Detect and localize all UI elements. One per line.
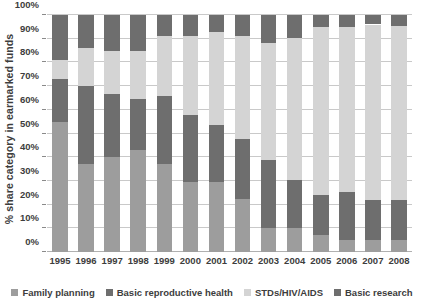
bar-segment (313, 27, 329, 195)
bar-segment (313, 15, 329, 27)
bar-1998 (130, 15, 146, 252)
bar-2006 (339, 15, 355, 252)
legend-swatch-icon (11, 289, 18, 296)
bar-2008 (391, 15, 407, 252)
bar-segment (130, 99, 146, 150)
y-tick-label: 90% (20, 22, 39, 33)
legend-label: Basic reproductive health (117, 287, 233, 298)
y-tick-label: 0% (25, 236, 39, 247)
bar-segment (183, 15, 199, 36)
bar-segment (52, 15, 68, 60)
y-axis-title: % share category in earmarked funds (0, 0, 18, 258)
bar-segment (313, 235, 329, 252)
y-tick-label: 60% (20, 93, 39, 104)
y-tick-mark (42, 227, 46, 228)
bar-segment (104, 15, 120, 51)
bars-layer (47, 15, 412, 252)
legend-swatch-icon (334, 289, 341, 296)
y-tick-label: 40% (20, 141, 39, 152)
stacked-bar-chart: % share category in earmarked funds 0%10… (0, 0, 424, 304)
y-tick-label: 50% (20, 117, 39, 128)
bar-segment (157, 36, 173, 95)
bar-segment (52, 122, 68, 252)
x-tick-label: 2004 (282, 255, 308, 266)
bar-1995 (52, 15, 68, 252)
x-tick-label: 2002 (230, 255, 256, 266)
bar-segment (261, 43, 277, 159)
x-axis-labels: 1995199619971998199920002001200220032004… (47, 255, 412, 269)
y-tick-label: 20% (20, 188, 39, 199)
bar-segment (157, 96, 173, 165)
x-tick-label: 2003 (256, 255, 282, 266)
legend-label: Family planning (22, 287, 94, 298)
bar-segment (157, 15, 173, 36)
y-axis-title-text: % share category in earmarked funds (3, 34, 15, 224)
x-tick-label: 1998 (125, 255, 151, 266)
bar-segment (339, 192, 355, 241)
x-tick-label: 1995 (47, 255, 73, 266)
bar-1997 (104, 15, 120, 252)
bar-segment (391, 26, 407, 200)
bar-segment (52, 60, 68, 79)
y-tick-mark (42, 133, 46, 134)
bar-segment (287, 180, 303, 229)
legend-label: Basic research (345, 287, 413, 298)
legend-item: STDs/HIV/AIDS (244, 287, 323, 298)
x-tick-label: 2006 (334, 255, 360, 266)
bar-segment (130, 15, 146, 51)
y-tick-mark (42, 204, 46, 205)
y-tick-mark (42, 14, 46, 15)
bar-segment (104, 51, 120, 95)
bar-2003 (261, 15, 277, 252)
y-tick-label: 30% (20, 164, 39, 175)
y-tick-mark (42, 109, 46, 110)
bar-1999 (157, 15, 173, 252)
bar-segment (339, 15, 355, 27)
bar-segment (209, 182, 225, 252)
bar-segment (157, 164, 173, 252)
bar-segment (391, 240, 407, 252)
y-tick-label: 70% (20, 70, 39, 81)
legend-swatch-icon (244, 289, 251, 296)
y-tick-label: 100% (15, 0, 39, 10)
bar-segment (130, 150, 146, 252)
bar-segment (78, 15, 94, 48)
bar-segment (78, 164, 94, 252)
bar-segment (261, 15, 277, 43)
legend-swatch-icon (106, 289, 113, 296)
y-tick-mark (42, 61, 46, 62)
bar-segment (183, 182, 199, 252)
bar-segment (365, 240, 381, 252)
y-tick-mark (42, 251, 46, 252)
bar-segment (287, 228, 303, 252)
bar-segment (339, 27, 355, 192)
bar-segment (365, 25, 381, 200)
x-tick-label: 1996 (73, 255, 99, 266)
chart-legend: Family planningBasic reproductive health… (0, 284, 424, 300)
bar-segment (391, 200, 407, 240)
bar-segment (261, 228, 277, 252)
legend-label: STDs/HIV/AIDS (255, 287, 323, 298)
bar-segment (339, 240, 355, 252)
x-tick-label: 1999 (151, 255, 177, 266)
plot-area: 0%10%20%30%40%50%60%70%80%90%100% (47, 15, 412, 252)
bar-segment (235, 15, 251, 36)
x-tick-label: 2007 (360, 255, 386, 266)
bar-2000 (183, 15, 199, 252)
bar-segment (52, 79, 68, 122)
bar-segment (130, 51, 146, 100)
y-tick-mark (42, 38, 46, 39)
legend-item: Basic research (334, 287, 413, 298)
bar-segment (209, 15, 225, 32)
x-tick-label: 2000 (177, 255, 203, 266)
y-tick-mark (42, 156, 46, 157)
bar-segment (365, 15, 381, 24)
bar-segment (183, 115, 199, 183)
bar-segment (287, 38, 303, 180)
bar-segment (235, 199, 251, 252)
bar-segment (287, 15, 303, 38)
bar-segment (104, 94, 120, 157)
bar-2004 (287, 15, 303, 252)
bar-segment (391, 15, 407, 26)
y-tick-label: 80% (20, 46, 39, 57)
